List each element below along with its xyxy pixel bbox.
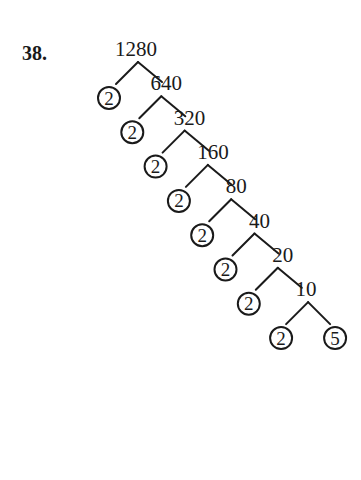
factor-tree: 128026402320216028024022021025 [0,0,361,480]
composite-number: 80 [226,174,247,198]
branch-left [163,131,185,153]
branch-left [139,96,161,118]
root-number: 1280 [115,37,157,61]
branch-left [286,302,308,324]
prime-factor: 2 [244,293,254,314]
prime-factor: 2 [197,225,207,246]
prime-factor: 2 [151,156,161,177]
branch-left [256,268,278,290]
prime-factor: 2 [104,88,114,109]
composite-number: 40 [249,209,270,233]
branch-left [186,165,208,187]
composite-number: 160 [197,140,229,164]
composite-number: 10 [296,277,317,301]
prime-factor: 5 [330,328,340,349]
prime-factor: 2 [128,122,138,143]
composite-number: 20 [272,243,293,267]
prime-factor: 2 [221,259,231,280]
branch-left [116,62,138,84]
branch-left [233,234,255,256]
composite-number: 640 [151,71,183,95]
composite-number: 320 [174,106,206,130]
prime-factor: 2 [174,190,184,211]
prime-factor: 2 [276,328,286,349]
branch-right [308,302,330,324]
branch-left [209,199,231,221]
